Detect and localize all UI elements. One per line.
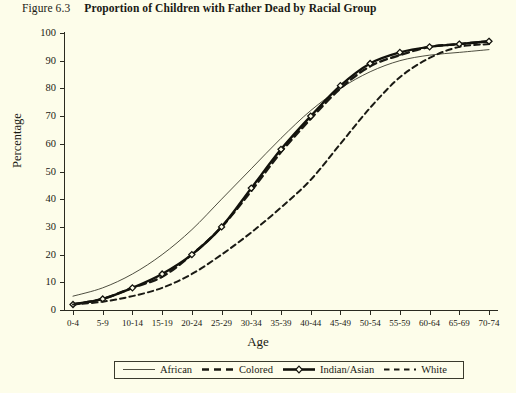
series-african: [73, 50, 489, 297]
series-lines: [65, 33, 497, 310]
x-axis-label: Age: [0, 334, 516, 350]
x-axis-tick-label: 5-9: [97, 319, 109, 328]
x-axis-tick-label: 15-19: [152, 319, 173, 328]
x-axis-tick: [192, 310, 193, 315]
legend-item-colored[interactable]: Colored: [201, 364, 282, 375]
x-axis-tick-label: 60-64: [419, 319, 440, 328]
y-axis-tick-label: 30: [46, 222, 57, 233]
x-axis-tick: [311, 310, 312, 315]
series-line: [73, 41, 489, 304]
legend: AfricanColoredIndian/AsianWhite: [114, 361, 464, 379]
y-axis-label: Percentage: [10, 113, 25, 168]
x-axis-tick: [132, 310, 133, 315]
x-axis-tick-label: 55-59: [389, 319, 410, 328]
legend-item-white[interactable]: White: [383, 364, 456, 375]
figure-title: Proportion of Children with Father Dead …: [84, 2, 376, 14]
legend-item-label: Indian/Asian: [316, 364, 383, 375]
legend-item-label: African: [156, 364, 201, 375]
x-axis-tick: [73, 310, 74, 315]
series-indian-asian: [70, 38, 492, 307]
thick-dashed-line-icon: [201, 364, 235, 375]
y-axis-tick-label: 20: [46, 249, 57, 260]
x-axis-tick-label: 10-14: [122, 319, 143, 328]
y-axis-tick-label: 50: [46, 166, 57, 177]
figure-caption: Figure 6.3 Proportion of Children with F…: [22, 2, 376, 14]
x-axis-tick-label: 20-24: [181, 319, 202, 328]
legend-item-african[interactable]: African: [122, 364, 201, 375]
x-axis-tick-label: 50-54: [360, 319, 381, 328]
x-axis-tick: [103, 310, 104, 315]
legend-item-indian-asian[interactable]: Indian/Asian: [282, 364, 383, 375]
y-axis-tick-label: 100: [40, 28, 56, 39]
x-axis-tick-label: 40-44: [300, 319, 321, 328]
x-axis-tick: [162, 310, 163, 315]
y-axis-tick-label: 70: [46, 111, 57, 122]
plot-area: 0102030405060708090100 0-45-910-1415-192…: [65, 33, 497, 310]
x-axis-tick: [489, 310, 490, 315]
y-axis-tick-label: 90: [46, 55, 57, 66]
x-axis-tick: [430, 310, 431, 315]
series-line: [73, 41, 489, 304]
series-white: [73, 44, 489, 304]
legend-item-label: Colored: [235, 364, 282, 375]
y-axis-tick-label: 60: [46, 139, 57, 150]
x-axis-tick-label: 35-39: [271, 319, 292, 328]
series-line: [73, 44, 489, 304]
x-axis-tick-label: 25-29: [211, 319, 232, 328]
x-axis-tick: [459, 310, 460, 315]
x-axis-tick: [281, 310, 282, 315]
x-axis-tick-label: 45-49: [330, 319, 351, 328]
thick-solid-diamond-line-icon: [282, 364, 316, 375]
dashed-line-icon: [383, 364, 417, 375]
y-axis-tick-label: 10: [46, 277, 57, 288]
y-axis-tick: [60, 310, 65, 311]
y-axis-tick-label: 0: [51, 305, 56, 316]
thin-solid-line-icon: [122, 364, 156, 375]
legend-item-label: White: [417, 364, 456, 375]
x-axis-tick-label: 0-4: [67, 319, 79, 328]
x-axis-tick: [251, 310, 252, 315]
x-axis-tick-label: 70-74: [479, 319, 500, 328]
x-axis-tick-label: 65-69: [449, 319, 470, 328]
x-axis-tick: [400, 310, 401, 315]
series-colored: [73, 41, 489, 304]
series-marker-diamond: [427, 44, 433, 50]
x-axis-tick: [340, 310, 341, 315]
figure-number: Figure 6.3: [22, 2, 70, 14]
x-axis-tick: [222, 310, 223, 315]
y-axis-tick-label: 40: [46, 194, 57, 205]
x-axis-tick-label: 30-34: [241, 319, 262, 328]
figure-container: Figure 6.3 Proportion of Children with F…: [0, 0, 516, 393]
y-axis-tick-label: 80: [46, 83, 57, 94]
x-axis-tick: [370, 310, 371, 315]
series-line: [73, 50, 489, 297]
